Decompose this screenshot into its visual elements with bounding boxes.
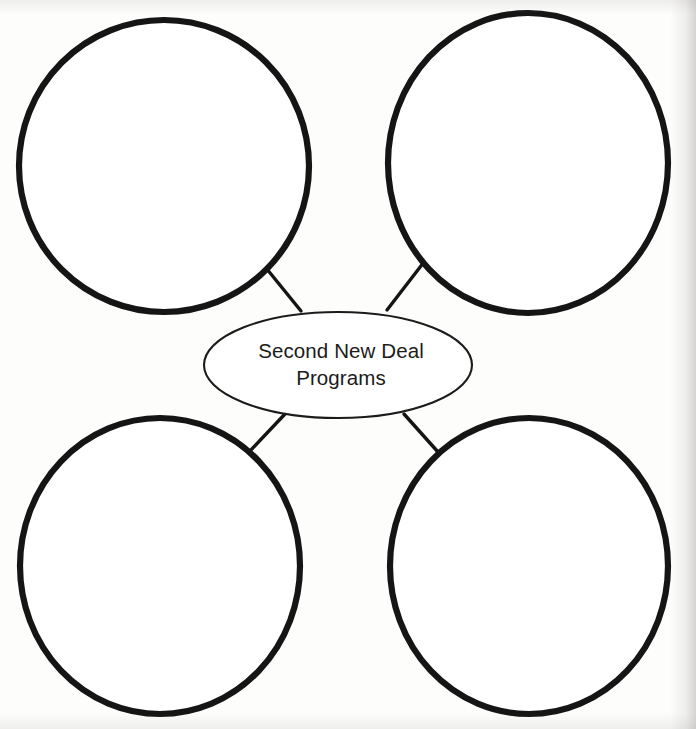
graphic-organizer-diagram: Second New Deal Programs [0,0,696,729]
worksheet-canvas: Second New Deal Programs [0,0,696,729]
center-topic-line-1: Second New Deal [258,339,424,362]
node-circle-top-left[interactable] [19,20,309,312]
node-circle-top-right[interactable] [388,13,668,313]
center-topic-line-2: Programs [296,366,386,389]
node-circle-bottom-left[interactable] [20,418,300,714]
node-circle-bottom-right[interactable] [390,418,668,714]
connector-bottom-right [404,414,438,452]
connector-bottom-left [249,414,285,452]
connector-top-right [387,262,424,310]
center-topic-ellipse [204,312,472,418]
